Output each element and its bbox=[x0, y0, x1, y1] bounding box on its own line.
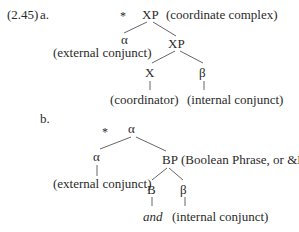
ungrammatical-star: * bbox=[102, 125, 108, 139]
example-a-label: a. bbox=[40, 8, 49, 22]
tree-a-beta-node: β bbox=[199, 66, 206, 80]
example-number: (2.45) bbox=[7, 8, 38, 22]
tree-b-bp-node: BP bbox=[162, 153, 178, 167]
tree-a-root-node: XP bbox=[142, 8, 159, 22]
tree-b-beta-note: (internal conjunct) bbox=[172, 210, 268, 224]
tree-b-root-node: α bbox=[128, 122, 135, 136]
tree-a-beta-note: (internal conjunct) bbox=[187, 93, 283, 107]
tree-a-alpha-note: (external conjunct) bbox=[53, 46, 152, 60]
tree-b-b-node: B bbox=[147, 183, 156, 197]
tree-b-alpha-note: (external conjunct) bbox=[53, 177, 152, 191]
tree-a-x-note: (coordinator) bbox=[110, 93, 179, 107]
example-b-label: b. bbox=[40, 112, 50, 126]
tree-b-and-word: and bbox=[143, 210, 163, 224]
tree-a-inner-xp-node: XP bbox=[168, 37, 185, 51]
ungrammatical-star: * bbox=[120, 9, 126, 23]
tree-b-alpha-node: α bbox=[93, 150, 100, 164]
tree-b-bp-note: (Boolean Phrase, or &P) bbox=[181, 153, 299, 167]
tree-a-root-note: (coordinate complex) bbox=[166, 8, 278, 22]
tree-a-x-node: X bbox=[145, 66, 154, 80]
tree-b-beta-node: β bbox=[180, 183, 187, 197]
